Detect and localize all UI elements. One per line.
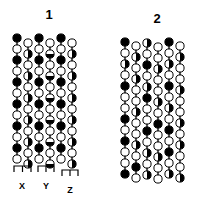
- bead-open: [143, 138, 151, 146]
- bead-fill: [35, 144, 43, 152]
- bead-fill: [35, 122, 43, 130]
- bead-open: [132, 174, 140, 182]
- bead-filled: [57, 144, 65, 152]
- bead-filled: [154, 120, 162, 128]
- bead-open: [46, 127, 54, 135]
- panel-1-column-6: [68, 39, 76, 168]
- bead-filled: [13, 78, 21, 86]
- bead-open: [143, 72, 151, 80]
- bead-half-right: [24, 116, 32, 124]
- bead-open: [35, 67, 43, 75]
- bead-fill: [57, 100, 65, 108]
- bead-fill: [13, 56, 21, 64]
- bead-open: [35, 133, 43, 141]
- bead-half-bottom: [46, 138, 54, 146]
- bead-fill: [13, 100, 21, 108]
- bead-fill: [35, 100, 43, 108]
- bead-filled: [143, 127, 151, 135]
- bead-open: [154, 43, 162, 51]
- bead-open: [143, 116, 151, 124]
- bead-open: [132, 86, 140, 94]
- bead-filled: [13, 56, 21, 64]
- bead-filled: [143, 94, 151, 102]
- bead-filled: [35, 144, 43, 152]
- bead-open: [121, 148, 129, 156]
- bead-fill: [57, 56, 65, 64]
- bead-open: [143, 50, 151, 58]
- bead-half-right: [24, 138, 32, 146]
- bead-half-right: [143, 83, 151, 91]
- bead-open: [154, 76, 162, 84]
- panel-2-column-4: [154, 43, 162, 183]
- bead-half-right: [68, 138, 76, 146]
- bead-fill: [143, 61, 151, 69]
- bead-half-right: [68, 50, 76, 58]
- bead-fill: [35, 34, 43, 42]
- bead-open: [24, 149, 32, 157]
- panel-2-label: 2: [147, 12, 167, 25]
- bead-half-right: [176, 53, 184, 61]
- bead-filled: [35, 56, 43, 64]
- bead-open: [121, 93, 129, 101]
- bead-fill: [121, 137, 129, 145]
- chromosome-bead-diagram: 1XYZ2: [0, 0, 207, 201]
- bead-filled: [121, 137, 129, 145]
- bead-open: [46, 149, 54, 157]
- bead-open: [121, 104, 129, 112]
- bead-half-right: [68, 72, 76, 80]
- bead-open: [13, 155, 21, 163]
- bead-open: [132, 130, 140, 138]
- panel-1-column-3: [35, 34, 43, 163]
- bead-filled: [35, 34, 43, 42]
- bead-half-right: [68, 160, 76, 168]
- bead-open: [176, 75, 184, 83]
- bead-half-right: [132, 75, 140, 83]
- bead-filled: [13, 100, 21, 108]
- bead-half-right: [154, 153, 162, 161]
- bead-half-right: [143, 149, 151, 157]
- bead-fill: [57, 144, 65, 152]
- panel-2-column-1: [121, 38, 129, 178]
- bead-half-right: [24, 94, 32, 102]
- bead-open: [13, 133, 21, 141]
- bead-open: [176, 42, 184, 50]
- bead-open: [121, 71, 129, 79]
- bead-open: [68, 39, 76, 47]
- bead-half-right: [165, 104, 173, 112]
- bead-fill: [165, 148, 173, 156]
- bead-filled: [165, 82, 173, 90]
- bead-open: [46, 39, 54, 47]
- bead-open: [24, 83, 32, 91]
- bead-open: [121, 159, 129, 167]
- bracket-x-label: X: [14, 182, 30, 191]
- bracket-z-label: Z: [62, 186, 78, 195]
- bead-fill: [35, 56, 43, 64]
- bead-open: [46, 105, 54, 113]
- bead-filled: [121, 170, 129, 178]
- bead-fill: [165, 82, 173, 90]
- panel-1-column-2: [24, 39, 32, 168]
- bead-open: [68, 105, 76, 113]
- bead-open: [57, 133, 65, 141]
- bead-open: [154, 109, 162, 117]
- bead-half-right: [165, 60, 173, 68]
- panel-1-column-5: [57, 34, 65, 163]
- bead-open: [176, 108, 184, 116]
- bead-open: [121, 126, 129, 134]
- bead-half-right: [68, 116, 76, 124]
- bracket-z: [62, 170, 78, 176]
- bead-open: [143, 105, 151, 113]
- panel-2-column-5: [165, 38, 173, 178]
- bead-filled: [13, 144, 21, 152]
- panel-2-column-3: [143, 39, 151, 179]
- bead-open: [165, 115, 173, 123]
- panel-2-column-6: [176, 42, 184, 182]
- bead-open: [154, 131, 162, 139]
- bead-open: [24, 61, 32, 69]
- bead-open: [132, 97, 140, 105]
- bead-filled: [143, 61, 151, 69]
- bead-filled: [35, 100, 43, 108]
- bead-filled: [165, 38, 173, 46]
- bead-open: [35, 111, 43, 119]
- panel-2-column-2: [132, 42, 140, 182]
